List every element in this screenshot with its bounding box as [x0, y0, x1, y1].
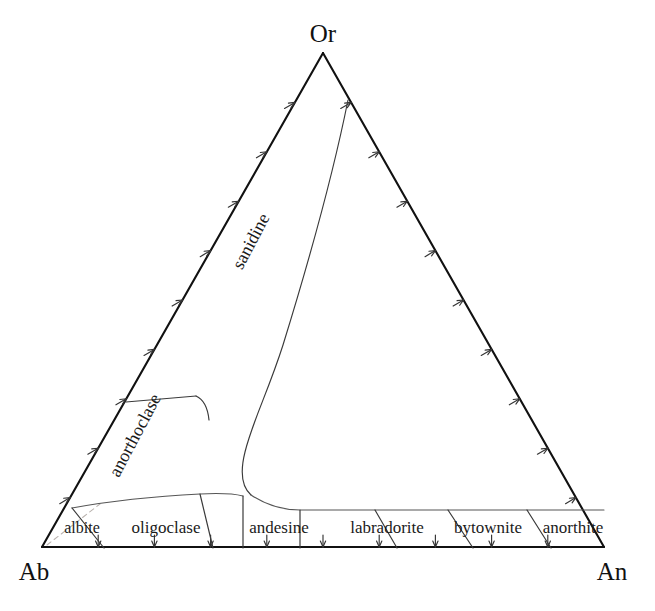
plagioclase-field-labels: albiteoligoclaseandesinelabradoritebytow… — [64, 518, 603, 537]
triangle-edges — [42, 53, 604, 547]
apex-label-or: Or — [310, 20, 337, 47]
ternary-diagram-svg: Or Ab An sanidine anorthoclase albiteoli… — [0, 0, 655, 611]
alkali-feldspar-solvus-curve — [242, 100, 348, 495]
field-label-sanidine: sanidine — [228, 210, 274, 272]
anorthoclase-solvus-stem — [196, 396, 209, 420]
tick-group-or-an — [341, 102, 576, 503]
plagioclase-upper-boundary-right — [251, 495, 604, 510]
field-label-andesine: andesine — [249, 518, 308, 537]
field-label-labradorite: labradorite — [350, 518, 424, 537]
ternary-diagram-figure: Or Ab An sanidine anorthoclase albiteoli… — [0, 0, 655, 611]
field-label-anorthoclase: anorthoclase — [105, 390, 165, 480]
field-label-bytownite: bytownite — [454, 518, 522, 537]
apex-labels: Or Ab An — [19, 20, 628, 585]
interior-boundaries — [47, 100, 604, 548]
field-label-oligoclase: oligoclase — [132, 518, 201, 537]
apex-label-ab: Ab — [19, 558, 50, 585]
field-label-albite: albite — [64, 519, 100, 536]
plagioclase-divider-1 — [200, 494, 213, 548]
field-label-anorthite: anorthite — [543, 518, 603, 537]
apex-label-an: An — [597, 558, 628, 585]
